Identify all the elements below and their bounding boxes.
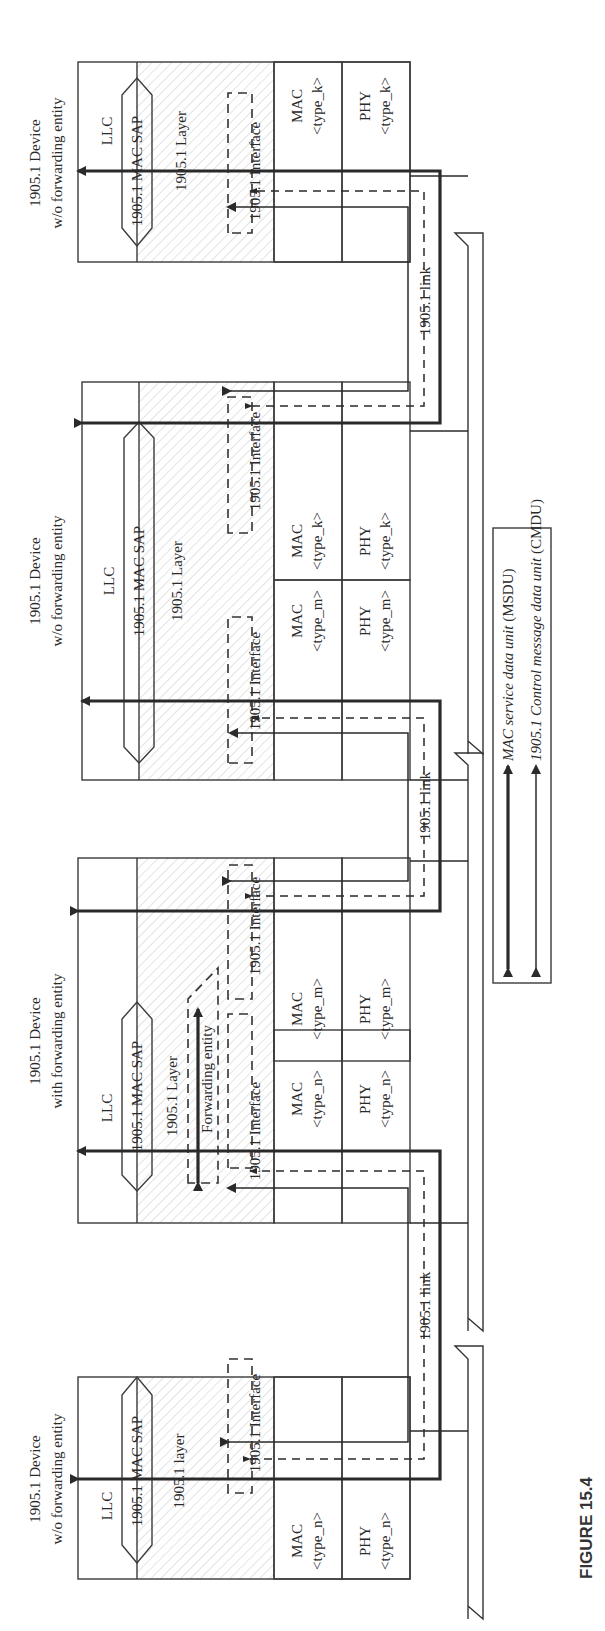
device-1-title-line1: 1905.1 Device bbox=[27, 1435, 43, 1523]
device-4-mac bbox=[274, 62, 342, 262]
device-3-interface-m-label: 1905.1 Interface bbox=[247, 632, 263, 731]
medium-bar-3 bbox=[455, 233, 483, 754]
device-3-phy-k bbox=[342, 382, 410, 580]
device-2-phy-n-label: PHY bbox=[357, 1084, 373, 1114]
legend: MAC service data unit (MSDU) 1905.1 Cont… bbox=[493, 499, 551, 983]
device-2-layer-label: 1905.1 Layer bbox=[164, 1056, 180, 1136]
device-4-title-line1: 1905.1 Device bbox=[27, 119, 43, 207]
device-2-phy-m-label: PHY bbox=[357, 994, 373, 1024]
device-4-phy-label: PHY bbox=[357, 91, 373, 121]
device-2-title-line2: with forwarding entity bbox=[49, 973, 65, 1108]
device-1-sap-label: 1905.1 MAC SAP bbox=[129, 1416, 145, 1526]
device-3-mac-k bbox=[274, 382, 342, 580]
legend-msdu-text: MAC service data unit (MSDU) bbox=[500, 569, 517, 762]
device-2-mac-n-label: MAC bbox=[289, 1082, 305, 1116]
device-2-interface-m-label: 1905.1 Interface bbox=[247, 877, 263, 976]
device-3-mac-k-label: MAC bbox=[289, 524, 305, 558]
device-3-mac-m bbox=[274, 580, 342, 780]
device-1-mac-type: <type_n> bbox=[309, 1512, 325, 1570]
link-1-label: 1905.1 link bbox=[417, 1271, 433, 1340]
device-4-layer-label: 1905.1 Layer bbox=[173, 111, 189, 191]
device-2-phy-n-type: <type_n> bbox=[377, 1070, 393, 1128]
device-3-title-line2: w/o forwarding entity bbox=[49, 515, 65, 646]
device-4-title-line2: w/o forwarding entity bbox=[49, 97, 65, 228]
device-4-mac-label: MAC bbox=[289, 89, 305, 123]
device-3-title-line1: 1905.1 Device bbox=[27, 537, 43, 625]
device-3-phy-k-type: <type_k> bbox=[377, 512, 393, 570]
device-3-phy-k-label: PHY bbox=[357, 526, 373, 556]
device-3-phy-m bbox=[342, 580, 410, 780]
device-3-layer-label: 1905.1 Layer bbox=[169, 541, 185, 621]
device-2-llc-label: LLC bbox=[99, 1094, 115, 1122]
link-3-label: 1905.1 link bbox=[417, 266, 433, 335]
device-3-mac-m-type: <type_m> bbox=[309, 590, 325, 652]
link-2-cmdu-dashed bbox=[252, 718, 424, 896]
device-3-phy-m-label: PHY bbox=[357, 606, 373, 636]
figure-stage: 1905.1 Device w/o forwarding entity LLC … bbox=[0, 0, 605, 1631]
device-2-mac-n-type: <type_n> bbox=[309, 1070, 325, 1128]
device-3-phy-m-type: <type_m> bbox=[377, 590, 393, 652]
figure-caption: FIGURE 15.4 bbox=[577, 1476, 596, 1579]
device-3: 1905.1 Device w/o forwarding entity LLC … bbox=[27, 382, 410, 780]
device-3-mac-m-label: MAC bbox=[289, 604, 305, 638]
device-2-phy-n bbox=[342, 1030, 410, 1223]
medium-bar-1 bbox=[455, 1346, 483, 1619]
device-2-sap-label: 1905.1 MAC SAP bbox=[129, 1041, 145, 1151]
device-2-phy-m-type: <type_m> bbox=[377, 978, 393, 1040]
device-2-mac-m-type: <type_m> bbox=[309, 978, 325, 1040]
device-1-phy-label: PHY bbox=[357, 1526, 373, 1556]
device-2-title-line1: 1905.1 Device bbox=[27, 997, 43, 1085]
device-1-llc-label: LLC bbox=[99, 1492, 115, 1520]
device-4-phy-type: <type_k> bbox=[377, 77, 393, 135]
device-2-mac-n bbox=[274, 1030, 342, 1223]
device-2: 1905.1 Device with forwarding entity LLC… bbox=[27, 858, 410, 1223]
network-diagram: 1905.1 Device w/o forwarding entity LLC … bbox=[0, 0, 605, 1631]
device-1-interface-label: 1905.1 Interface bbox=[247, 1374, 263, 1473]
link-1-cmdu-dashed bbox=[250, 1171, 424, 1459]
device-4: 1905.1 Device w/o forwarding entity LLC … bbox=[27, 62, 410, 262]
device-2-interface-n-label: 1905.1 Interface bbox=[247, 1082, 263, 1181]
device-1: 1905.1 Device w/o forwarding entity LLC … bbox=[27, 1359, 410, 1579]
device-1-phy-type: <type_n> bbox=[377, 1512, 393, 1570]
device-1-mac-label: MAC bbox=[289, 1524, 305, 1558]
device-3-interface-k-label: 1905.1 Interface bbox=[247, 412, 263, 511]
device-3-mac-k-type: <type_k> bbox=[309, 512, 325, 570]
device-1-layer-label: 1905.1 layer bbox=[171, 1434, 187, 1509]
medium-bar-2 bbox=[455, 753, 483, 1331]
device-3-llc-label: LLC bbox=[101, 567, 117, 595]
device-4-phy bbox=[342, 62, 410, 262]
medium-bars bbox=[410, 176, 483, 1619]
link-3-cmdu-dashed bbox=[250, 191, 424, 406]
device-3-sap-label: 1905.1 MAC SAP bbox=[131, 526, 147, 636]
device-2-mac-m-label: MAC bbox=[289, 992, 305, 1026]
device-4-mac-type: <type_k> bbox=[309, 77, 325, 135]
link-2-label: 1905.1 link bbox=[417, 771, 433, 840]
device-1-title-line2: w/o forwarding entity bbox=[49, 1413, 65, 1544]
device-4-llc-label: LLC bbox=[99, 117, 115, 145]
legend-cmdu-text: 1905.1 Control message data unit (CMDU) bbox=[528, 499, 545, 761]
forwarding-entity-label: Forwarding entity bbox=[199, 1025, 215, 1133]
